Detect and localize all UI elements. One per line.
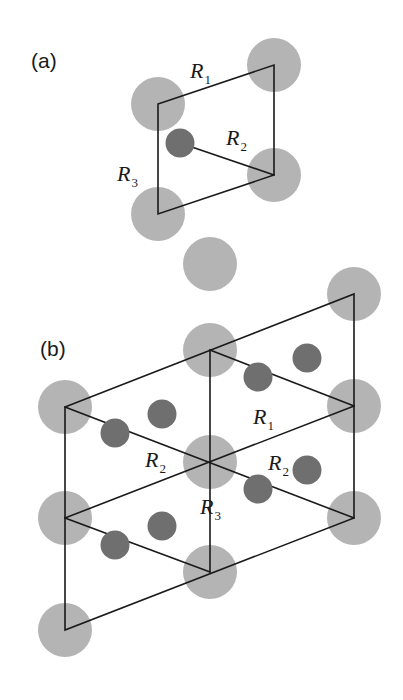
panel-tag-b: (b)	[40, 337, 66, 360]
small-atom	[293, 344, 322, 373]
distance-label-symbol: R	[252, 404, 267, 429]
small-atom	[148, 400, 177, 429]
figure-container: (a)R1R2R3(b)R1R2R2R3	[0, 0, 403, 700]
distance-label-subscript: 1	[204, 72, 211, 87]
distance-label-symbol: R	[199, 494, 214, 519]
distance-label-subscript: 2	[240, 139, 247, 154]
small-atom	[148, 512, 177, 541]
small-atom	[244, 475, 273, 504]
small-atom	[244, 363, 273, 392]
small-atom	[166, 129, 195, 158]
distance-label-symbol: R	[225, 125, 240, 150]
small-atom	[293, 456, 322, 485]
panel-tag-a: (a)	[31, 49, 57, 72]
large-atom	[183, 237, 237, 291]
distance-label-symbol: R	[144, 447, 159, 472]
small-atom-group	[166, 129, 195, 158]
distance-label-subscript: 1	[267, 418, 274, 433]
lattice-diagram: (a)R1R2R3(b)R1R2R2R3	[0, 0, 403, 700]
distance-label-subscript: 3	[214, 508, 221, 523]
small-atom	[101, 531, 130, 560]
distance-label-symbol: R	[189, 58, 204, 83]
distance-label-subscript: 3	[131, 175, 138, 190]
small-atom	[101, 419, 130, 448]
distance-label-symbol: R	[116, 161, 131, 186]
distance-label-subscript: 2	[159, 461, 166, 476]
distance-label-symbol: R	[267, 450, 282, 475]
distance-label-subscript: 2	[282, 464, 289, 479]
